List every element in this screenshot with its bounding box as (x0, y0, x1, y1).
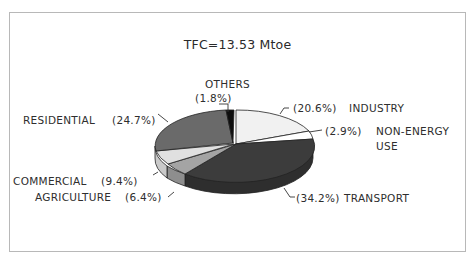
label-agriculture-pct: (6.4%) (125, 191, 162, 203)
label-nonenergy-pct: (2.9%) (325, 125, 362, 137)
label-nonenergy-name2: USE (376, 140, 398, 152)
leader-transport (284, 188, 295, 197)
label-industry-name: INDUSTRY (349, 102, 404, 114)
leader-nonenergy (309, 130, 322, 132)
label-nonenergy-name1: NON-ENERGY (376, 125, 449, 137)
label-transport-name: TRANSPORT (344, 192, 409, 204)
label-agriculture-name: AGRICULTURE (35, 191, 111, 203)
label-transport-pct: (34.2%) (296, 192, 340, 204)
label-commercial-name: COMMERCIAL (13, 175, 87, 187)
label-industry-pct: (20.6%) (293, 102, 337, 114)
leader-industry (280, 108, 289, 114)
leader-residential (158, 114, 168, 122)
label-others-pct: (1.8%) (195, 92, 232, 104)
label-residential-pct: (24.7%) (112, 114, 156, 126)
label-residential-name: RESIDENTIAL (23, 114, 95, 126)
label-commercial-pct: (9.4%) (101, 175, 138, 187)
label-others-name: OTHERS (205, 78, 250, 90)
pie-top-face (155, 110, 315, 182)
leader-commercial (153, 172, 158, 175)
leader-agriculture (168, 192, 174, 197)
